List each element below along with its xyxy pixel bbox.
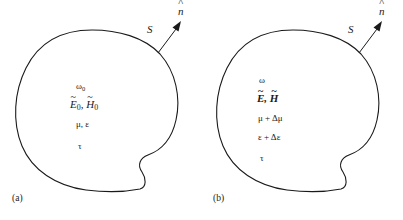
normal-symbol-b: ^ n <box>379 6 385 17</box>
fields-separator-b: , <box>264 92 267 104</box>
conductivity-label-b: τ <box>260 154 264 163</box>
hat-accent-b: ^ <box>379 0 384 9</box>
magnetic-field-symbol-a: ~ H <box>86 99 94 110</box>
frequency-label-a: ω0 <box>76 82 85 92</box>
fields-label-b: ~ E , ~ H <box>257 93 278 106</box>
constitutive-label-b-0: μ + Δμ <box>258 114 283 123</box>
tilde-accent-h-b: ~ <box>271 86 276 96</box>
panel-caption-b: (b) <box>213 194 224 204</box>
fields-separator-a: , <box>81 98 84 110</box>
normal-label-a: ^ n <box>178 6 184 17</box>
omega-symbol-b: ω <box>259 75 265 85</box>
electric-field-symbol-a: ~ E <box>70 99 77 110</box>
panel-b: S ^ n ω ~ E , ~ H μ + Δμ ε + Δε τ (b) <box>201 0 402 220</box>
tilde-accent-h-a: ~ <box>87 92 92 102</box>
tilde-accent-e-b: ~ <box>258 86 263 96</box>
surface-label-b: S <box>348 24 354 35</box>
normal-symbol-a: ^ n <box>178 6 184 17</box>
magnetic-subscript-a: 0 <box>94 103 98 112</box>
volume-outline-b <box>217 30 379 192</box>
electric-field-symbol-b: ~ E <box>257 93 264 104</box>
panel-a: S ^ n ω0 ~ E 0, ~ H 0 μ, ε τ (a) <box>0 0 201 220</box>
constitutive-label-b-1: ε + Δε <box>258 133 280 142</box>
panel-b-graphics <box>201 0 402 220</box>
hat-accent-a: ^ <box>178 0 183 9</box>
normal-label-b: ^ n <box>379 6 385 17</box>
omega-subscript-a: 0 <box>82 85 85 92</box>
normal-arrow-head-a <box>173 21 182 32</box>
magnetic-field-symbol-b: ~ H <box>270 93 279 104</box>
conductivity-label-a: τ <box>78 142 82 151</box>
panel-caption-a: (a) <box>12 194 23 204</box>
panel-a-graphics <box>0 0 201 220</box>
figure-root: S ^ n ω0 ~ E 0, ~ H 0 μ, ε τ (a) <box>0 0 403 220</box>
fields-label-a: ~ E 0, ~ H 0 <box>70 99 98 112</box>
surface-label-a: S <box>147 24 153 35</box>
tilde-accent-e-a: ~ <box>71 92 76 102</box>
normal-arrow-head-b <box>374 21 383 32</box>
constitutive-label-a-0: μ, ε <box>76 120 89 129</box>
